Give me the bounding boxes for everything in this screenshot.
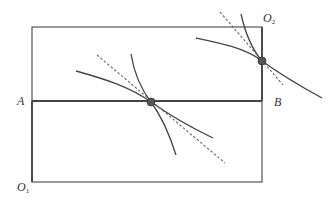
label-o2: O2 [263, 12, 275, 26]
indifference-curve-flat-center [76, 71, 213, 138]
label-o2-sub: 2 [272, 18, 276, 26]
label-o2-main: O [263, 11, 272, 25]
label-o1-main: O [17, 180, 26, 194]
tangency-point-upper [258, 57, 266, 65]
label-b: B [274, 96, 281, 108]
tangency-point-center [147, 98, 155, 106]
label-o1: O1 [17, 181, 29, 195]
indifference-curve-flat-upper [196, 38, 322, 98]
edgeworth-box-diagram [0, 0, 336, 204]
edgeworth-box-outline [32, 27, 262, 182]
label-o1-sub: 1 [26, 187, 30, 195]
label-a: A [17, 95, 24, 107]
